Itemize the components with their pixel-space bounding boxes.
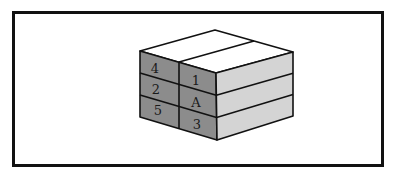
block-label-3: 3 xyxy=(193,117,201,132)
block-label-5: 5 xyxy=(154,103,162,118)
block-label-2: 2 xyxy=(152,82,160,97)
block-label-A: A xyxy=(190,95,201,110)
block-label-1: 1 xyxy=(192,73,200,88)
block-label-4: 4 xyxy=(151,61,159,76)
block-figure: 4 2 5 1 A 3 xyxy=(0,0,397,171)
